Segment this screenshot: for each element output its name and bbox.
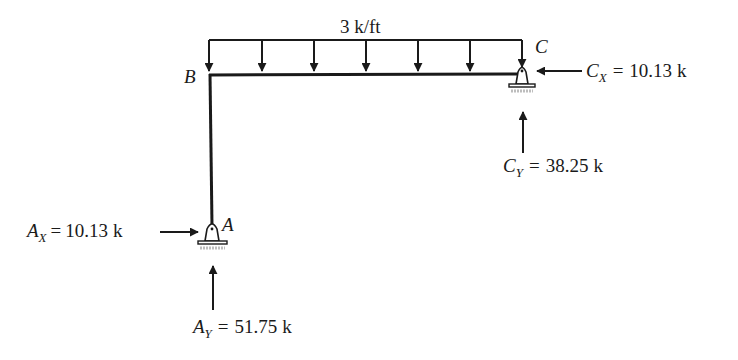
svg-text:CX=10.13k: CX=10.13k bbox=[586, 60, 687, 85]
ay-subscript: Y bbox=[205, 326, 214, 341]
ay-symbol: A bbox=[191, 316, 205, 337]
cx-subscript: X bbox=[598, 70, 608, 85]
reaction-ax: AX=10.13k bbox=[25, 220, 198, 245]
reaction-cx: CX=10.13k bbox=[537, 60, 687, 85]
reaction-ay: AY=51.75k bbox=[191, 266, 292, 341]
beam-bc bbox=[209, 74, 518, 75]
column-ab bbox=[210, 74, 212, 226]
ax-value: 10.13 bbox=[65, 220, 108, 241]
node-label-c: C bbox=[535, 36, 548, 57]
frame bbox=[209, 74, 518, 226]
reaction-cy: CY=38.25k bbox=[503, 112, 603, 180]
cy-symbol: C bbox=[503, 155, 516, 176]
ax-unit: k bbox=[113, 220, 123, 241]
ax-equals: = bbox=[51, 220, 62, 241]
node-label-a: A bbox=[220, 214, 234, 235]
svg-text:AX=10.13k: AX=10.13k bbox=[25, 220, 123, 245]
cy-value: 38.25 bbox=[546, 155, 589, 176]
ay-equals: = bbox=[218, 316, 229, 337]
svg-text:AY=51.75k: AY=51.75k bbox=[191, 316, 292, 341]
cx-value: 10.13 bbox=[629, 60, 672, 81]
ay-unit: k bbox=[282, 316, 292, 337]
ax-subscript: X bbox=[38, 230, 48, 245]
cy-subscript: Y bbox=[516, 165, 525, 180]
ay-value: 51.75 bbox=[235, 316, 278, 337]
svg-text:CY=38.25k: CY=38.25k bbox=[503, 155, 603, 180]
load-label: 3 k/ft bbox=[340, 16, 381, 37]
frame-diagram: 3 k/ft B C A CX=10.1 bbox=[0, 0, 738, 360]
cx-symbol: C bbox=[586, 60, 599, 81]
cx-unit: k bbox=[677, 60, 687, 81]
distributed-load: 3 k/ft bbox=[209, 16, 522, 71]
cy-equals: = bbox=[529, 155, 540, 176]
node-label-b: B bbox=[184, 66, 196, 87]
pin-support-c-icon bbox=[509, 68, 535, 92]
load-arrows bbox=[209, 40, 522, 71]
ax-symbol: A bbox=[25, 220, 39, 241]
cy-unit: k bbox=[593, 155, 603, 176]
cx-equals: = bbox=[613, 60, 624, 81]
